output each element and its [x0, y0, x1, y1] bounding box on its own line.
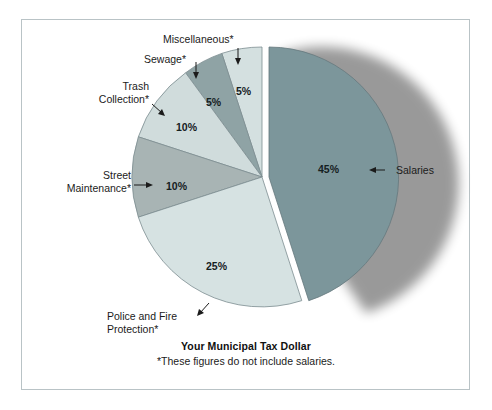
label-trash-collection-line2: Collection*: [49, 93, 149, 106]
value-trash-collection: 10%: [176, 121, 197, 133]
value-sewage: 5%: [206, 96, 221, 108]
chart-page: Miscellaneous* Sewage* Trash Collection*…: [0, 0, 492, 410]
label-police-and-fire-line2: Protection*: [107, 323, 158, 336]
label-street-maintenance-line2: Maintenance*: [31, 182, 131, 195]
label-salaries: Salaries: [396, 164, 434, 177]
label-miscellaneous: Miscellaneous*: [163, 33, 234, 46]
value-salaries: 45%: [318, 163, 339, 175]
value-miscellaneous: 5%: [236, 85, 251, 97]
chart-footnote: *These figures do not include salaries.: [0, 355, 492, 367]
chart-title: Your Municipal Tax Dollar: [0, 340, 492, 352]
label-trash-collection-line1: Trash: [49, 80, 149, 93]
label-police-and-fire-line1: Police and Fire: [107, 310, 177, 323]
value-street-maintenance: 10%: [166, 180, 187, 192]
value-police-and-fire: 25%: [206, 260, 227, 272]
label-sewage: Sewage*: [144, 53, 186, 66]
label-street-maintenance-line1: Street: [31, 169, 131, 182]
